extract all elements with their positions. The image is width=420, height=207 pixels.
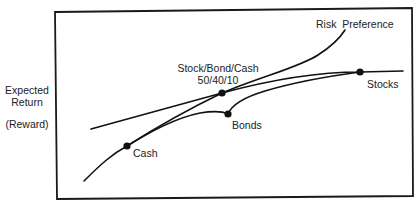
cash-point [123,142,130,149]
stocks-point [356,68,363,75]
bonds-label: Bonds [232,119,262,131]
risk-preference-label: Risk Preference [316,18,394,30]
y-axis-label-line3: (Reward) [5,118,48,130]
risk-preference-curve [84,30,345,181]
portfolio-label-line2: 50/40/10 [198,74,239,86]
risk-return-diagram: Expected Return (Reward) Risk Preference… [0,0,420,207]
stocks-label: Stocks [367,78,399,90]
cash-label: Cash [133,147,158,159]
diagram-frame [55,8,413,199]
portfolio-label-line1: Stock/Bond/Cash [177,62,258,74]
y-axis-label-line2: Return [11,96,43,108]
y-axis-label-line1: Expected [5,84,49,96]
bonds-point [224,110,231,117]
portfolio-point [218,89,225,96]
